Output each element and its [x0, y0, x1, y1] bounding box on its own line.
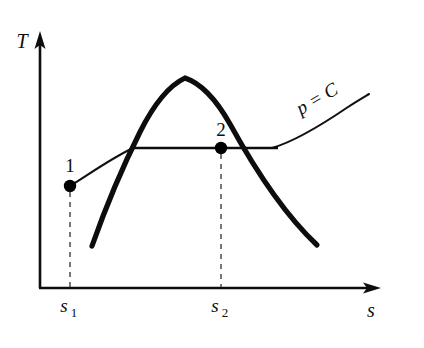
- x-tick-label-s1: s 1: [60, 295, 77, 320]
- state-point-1-dot: [64, 180, 76, 192]
- x-tick-label-s1-subscript: 1: [71, 305, 78, 320]
- ts-diagram-canvas: T s 1 2 s 1 s 2 p = C: [0, 0, 424, 348]
- y-axis-label: T: [16, 30, 29, 52]
- state-point-1-label: 1: [65, 155, 75, 176]
- state-point-2-dot: [215, 142, 227, 154]
- isobar-label: p = C: [290, 78, 341, 120]
- x-tick-label-s2-subscript: 2: [222, 305, 229, 320]
- ts-diagram-figure: T s 1 2 s 1 s 2 p = C: [0, 0, 424, 348]
- state-point-2-label: 2: [216, 119, 226, 140]
- x-axis-label: s: [367, 299, 375, 321]
- x-tick-label-s2-base: s: [211, 295, 218, 316]
- saturation-dome-curve: [92, 78, 317, 246]
- x-tick-label-s2: s 2: [211, 295, 228, 320]
- axes-group: [35, 31, 382, 294]
- x-tick-label-s1-base: s: [60, 295, 67, 316]
- dropline-group: [70, 154, 221, 287]
- state-markers-group: [64, 142, 227, 192]
